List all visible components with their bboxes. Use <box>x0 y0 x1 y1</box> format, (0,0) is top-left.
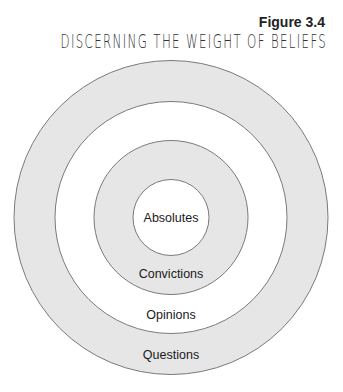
label-convictions: Convictions <box>139 267 204 281</box>
concentric-circles-diagram: Absolutes Convictions Opinions Questions <box>0 0 343 392</box>
label-absolutes: Absolutes <box>144 211 199 225</box>
label-opinions: Opinions <box>146 308 195 322</box>
label-questions: Questions <box>143 348 199 362</box>
